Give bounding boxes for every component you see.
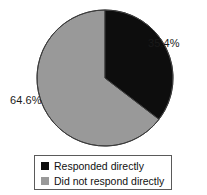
pie-chart-figure: 35.4% 64.6% Responded directly Did not r… (0, 0, 207, 195)
legend-swatch-gray-icon (41, 177, 49, 185)
legend-swatch-black-icon (41, 162, 49, 170)
legend-item-did-not-respond-directly: Did not respond directly (41, 174, 166, 188)
legend-item-responded-directly: Responded directly (41, 159, 166, 173)
pie-value-label-responded-directly: 35.4% (148, 37, 180, 49)
legend-label-did-not-respond-directly: Did not respond directly (54, 175, 164, 187)
pie-value-label-did-not-respond-directly: 64.6% (10, 94, 42, 106)
chart-legend: Responded directly Did not respond direc… (34, 155, 172, 190)
legend-label-responded-directly: Responded directly (54, 160, 144, 172)
